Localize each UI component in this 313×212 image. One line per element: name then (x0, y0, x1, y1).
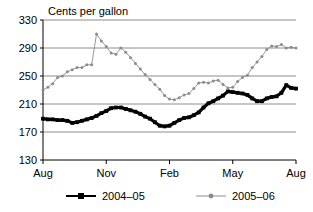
square-marker (56, 118, 60, 122)
circle-marker (187, 92, 190, 95)
circle-marker (71, 68, 74, 71)
square-marker (80, 119, 84, 123)
circle-marker (114, 53, 117, 56)
square-marker (226, 90, 230, 94)
square-marker (114, 106, 118, 110)
circle-marker (212, 79, 215, 82)
square-marker (129, 108, 133, 112)
legend-square-marker (78, 193, 84, 199)
circle-marker (153, 83, 156, 86)
circle-marker (295, 47, 298, 50)
y-tick-label: 130 (19, 154, 37, 166)
chart-container: 130170210250290330 AugNovFebMayAug Cents… (0, 0, 313, 212)
square-marker (90, 116, 94, 120)
square-marker (289, 86, 293, 90)
square-marker (168, 124, 172, 128)
square-marker (109, 106, 113, 110)
square-marker (270, 95, 274, 99)
circle-marker (202, 81, 205, 84)
circle-marker (134, 62, 137, 65)
circle-marker (144, 73, 147, 76)
circle-marker (256, 61, 259, 64)
square-marker (260, 99, 264, 103)
circle-marker (139, 68, 142, 71)
x-tick-label: Aug (33, 167, 53, 179)
square-marker (85, 118, 89, 122)
square-marker (211, 99, 215, 103)
circle-marker (90, 63, 93, 66)
circle-marker (197, 82, 200, 85)
y-tick-label: 170 (19, 126, 37, 138)
line-chart: 130170210250290330 AugNovFebMayAug Cents… (0, 0, 313, 212)
square-marker (187, 115, 191, 119)
circle-marker (168, 98, 171, 101)
square-marker (255, 99, 259, 103)
square-marker (75, 120, 79, 124)
circle-marker (231, 86, 234, 89)
square-marker (192, 113, 196, 117)
circle-marker (246, 74, 249, 77)
square-marker (202, 106, 206, 110)
circle-marker (105, 45, 108, 48)
square-marker (153, 120, 157, 124)
x-tick-label: Nov (96, 167, 116, 179)
square-marker (182, 116, 186, 120)
y-tick-label: 290 (19, 42, 37, 54)
y-tick-label: 250 (19, 70, 37, 82)
circle-marker (129, 56, 132, 59)
x-tick-label: May (222, 167, 243, 179)
square-marker (61, 118, 65, 122)
square-marker (163, 125, 167, 129)
square-marker (280, 91, 284, 95)
circle-marker (222, 83, 225, 86)
circle-marker (275, 45, 278, 48)
square-marker (46, 118, 50, 122)
circle-marker (280, 43, 283, 46)
square-marker (207, 101, 211, 105)
x-tick-label: Aug (286, 167, 306, 179)
square-marker (275, 94, 279, 98)
circle-marker (260, 55, 263, 58)
circle-marker (265, 48, 268, 51)
circle-marker (226, 86, 229, 89)
legend-label-1: 2004–05 (102, 190, 145, 202)
circle-marker (56, 76, 59, 79)
circle-marker (285, 47, 288, 50)
circle-marker (241, 76, 244, 79)
circle-marker (66, 70, 69, 73)
circle-marker (76, 66, 79, 69)
circle-marker (46, 86, 49, 89)
square-marker (241, 92, 245, 96)
circle-marker (178, 96, 181, 99)
square-marker (197, 111, 201, 115)
circle-marker (149, 78, 152, 81)
square-marker (70, 121, 74, 125)
square-marker (65, 119, 69, 123)
circle-marker (110, 51, 113, 54)
square-marker (265, 97, 269, 101)
square-marker (177, 118, 181, 122)
circle-marker (158, 88, 161, 91)
circle-marker (51, 82, 54, 85)
square-marker (221, 94, 225, 98)
circle-marker (236, 80, 239, 83)
circle-marker (183, 93, 186, 96)
square-marker (236, 91, 240, 95)
y-tick-label: 210 (19, 98, 37, 110)
legend-label-2: 2005–06 (232, 190, 275, 202)
square-marker (51, 118, 55, 122)
square-marker (41, 117, 45, 121)
square-marker (148, 117, 152, 121)
square-marker (95, 114, 99, 118)
square-marker (172, 121, 176, 125)
circle-marker (119, 47, 122, 50)
square-marker (99, 111, 103, 115)
circle-marker (100, 40, 103, 43)
square-marker (231, 90, 235, 94)
circle-marker (192, 87, 195, 90)
legend-circle-marker (209, 194, 214, 199)
square-marker (104, 109, 108, 113)
square-marker (143, 115, 147, 119)
circle-marker (270, 44, 273, 47)
circle-marker (42, 89, 45, 92)
